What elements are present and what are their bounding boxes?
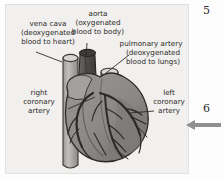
label-right-coronary-artery-line3: artery (28, 106, 51, 115)
label-left-coronary-artery-line2: coronary (153, 97, 185, 106)
label-pulmonary-artery-line2: (deoxygenated (126, 48, 180, 57)
label-aorta-line2: (oxygenated (75, 18, 120, 27)
label-pulmonary-artery-line3: blood to lungs) (126, 57, 180, 66)
heart-diagram-figure: vena cava (deoxygenated blood to heart) … (5, 4, 189, 174)
heart-diagram-illustration: vena cava (deoxygenated blood to heart) … (6, 5, 188, 173)
left-arrow-icon (186, 119, 222, 131)
label-pulmonary-artery: pulmonary artery (deoxygenated blood to … (120, 39, 184, 66)
label-left-coronary-artery-line3: artery (158, 106, 181, 115)
label-vena-cava-line1: vena cava (30, 19, 67, 28)
label-vena-cava-line2: (deoxygenated (21, 28, 75, 37)
label-pulmonary-artery-line1: pulmonary artery (120, 39, 184, 48)
label-right-coronary-artery-line1: right (31, 88, 48, 97)
margin-number-bottom: 6 (203, 103, 210, 114)
margin-number-top: 5 (203, 5, 210, 16)
label-left-coronary-artery-line1: left (163, 88, 175, 97)
label-vena-cava-line3: blood to heart) (21, 37, 75, 46)
label-right-coronary-artery-line2: coronary (23, 97, 55, 106)
label-aorta-line1: aorta (89, 9, 108, 18)
page-canvas: vena cava (deoxygenated blood to heart) … (0, 0, 224, 182)
label-aorta-line3: blood to body) (72, 27, 124, 36)
